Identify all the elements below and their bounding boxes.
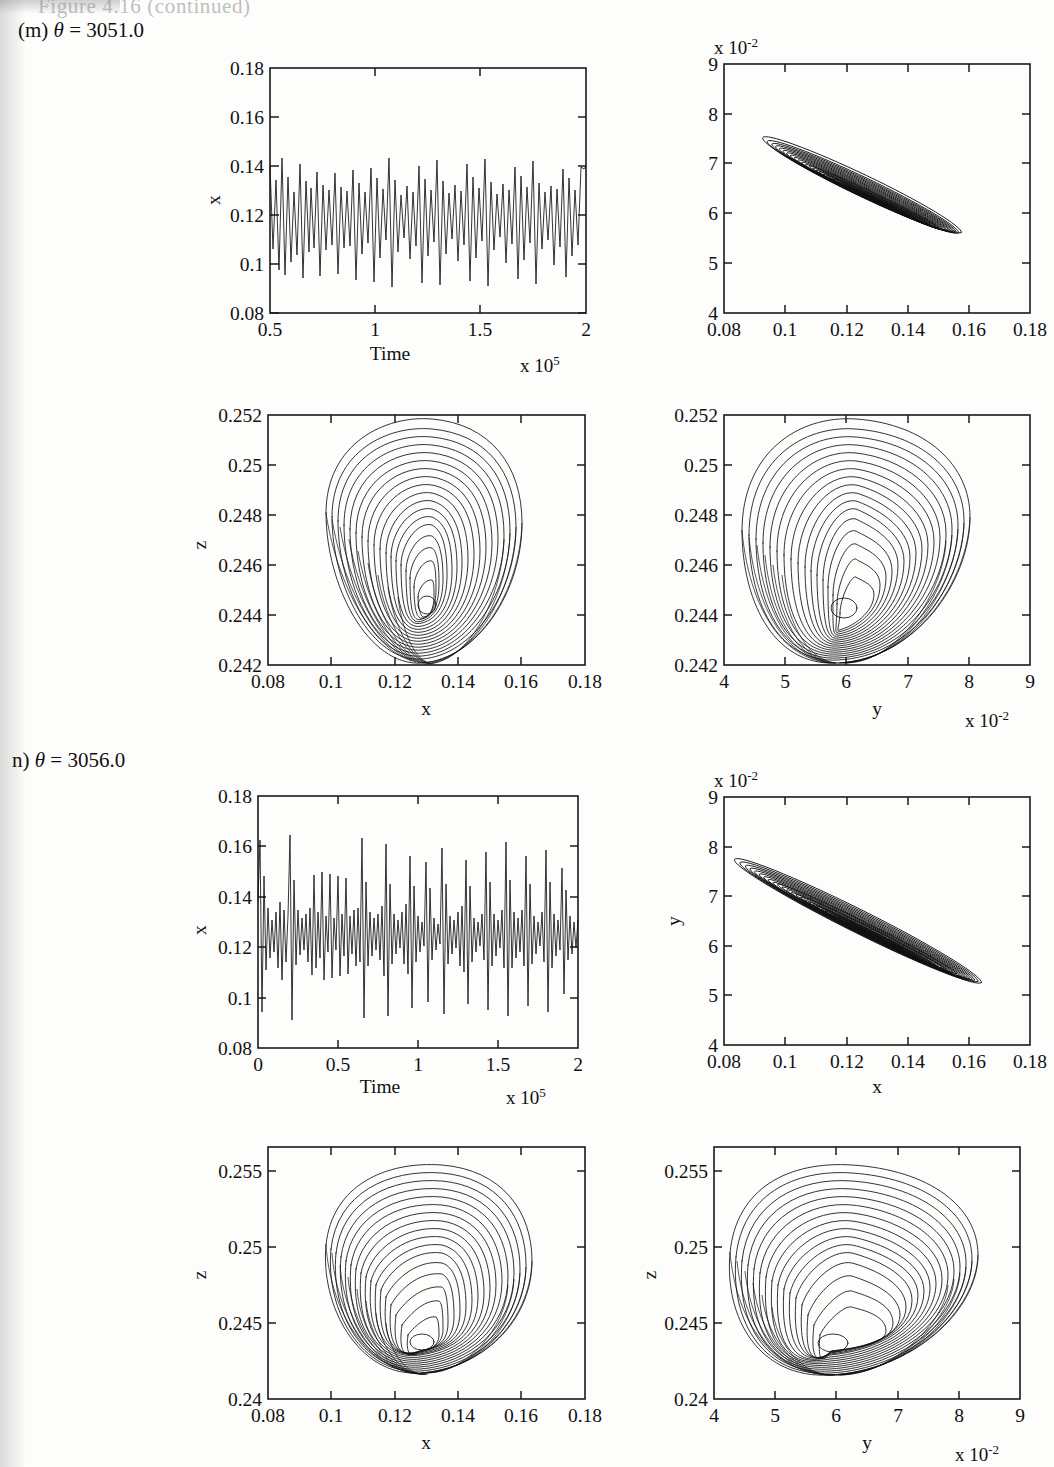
svg-text:0.16: 0.16 [504,1405,538,1426]
svg-text:0.255: 0.255 [218,1161,262,1182]
zx-attractor-trace [325,1165,532,1375]
svg-text:1: 1 [370,319,380,340]
svg-text:0.244: 0.244 [674,605,718,626]
panel-n-theta-value: 3056.0 [67,748,125,772]
x-ticks [775,1147,959,1399]
svg-text:0.18: 0.18 [230,58,264,79]
x-exponent-label: x 10-2 [955,1442,999,1465]
panel-caption-m: (m) θ = 3051.0 [18,18,144,43]
zy-attractor-trace [742,419,970,663]
y-axis-title: z [189,1270,210,1279]
y-axis-labels: 4 5 6 7 8 9 [708,54,718,324]
x-exponent-label: x 10-2 [965,708,1009,731]
x-axis-labels: 0.08 0.1 0.12 0.14 0.16 0.18 [707,319,1047,340]
chart-m-timeseries: 0.08 0.1 0.12 0.14 0.16 0.18 0.5 1 1.5 2… [190,40,610,380]
svg-text:8: 8 [708,104,718,125]
svg-text:6: 6 [708,203,718,224]
chart-m-zx: 0.242 0.244 0.246 0.248 0.25 0.252 0.08 … [130,395,610,735]
svg-text:0.16: 0.16 [504,671,538,692]
panel-n-label: n) [12,748,30,772]
zy-attractor-trace [729,1165,978,1376]
svg-text:2: 2 [581,319,591,340]
y-ticks [268,465,585,615]
x-axis-title: y [862,1432,872,1453]
svg-text:0.1: 0.1 [240,254,264,275]
svg-text:1.5: 1.5 [486,1054,510,1075]
x-axis-title: Time [370,343,410,364]
timeseries-trace [258,835,578,1020]
x-axis-labels: 0.08 0.1 0.12 0.14 0.16 0.18 [251,671,602,692]
plot-frame [268,1147,585,1399]
svg-text:0.12: 0.12 [830,1051,864,1072]
chart-m-xy: x 10-2 [690,30,1054,360]
x-axis-labels: 0.08 0.1 0.12 0.14 0.16 0.18 [707,1051,1047,1072]
y-axis-title: z [189,540,210,549]
svg-text:0.08: 0.08 [707,319,741,340]
svg-text:9: 9 [1025,671,1035,692]
chart-m-zy: 0.242 0.244 0.246 0.248 0.25 0.252 4 5 6… [630,395,1054,745]
svg-text:0.246: 0.246 [674,555,718,576]
x-exponent-label: x 105 [506,1085,546,1108]
svg-text:5: 5 [780,671,790,692]
svg-text:0.14: 0.14 [441,1405,475,1426]
svg-text:6: 6 [831,1405,841,1426]
svg-text:0.25: 0.25 [674,1237,708,1258]
m-zy-plot-area [724,415,1030,665]
timeseries-trace [270,158,586,287]
svg-text:9: 9 [1015,1405,1025,1426]
svg-text:0.1: 0.1 [319,1405,343,1426]
svg-text:0.14: 0.14 [230,156,264,177]
svg-text:9: 9 [708,54,718,75]
cut-off-figure-caption: Figure 4.16 (continued) [38,0,251,19]
m-timeseries-plot-area [270,68,586,313]
y-axis-labels: 0.242 0.244 0.246 0.248 0.25 0.252 [218,405,262,676]
x-axis-labels: 0.5 1 1.5 2 [258,319,591,340]
svg-text:7: 7 [708,886,718,907]
x-axis-title: y [872,698,882,719]
svg-text:0.08: 0.08 [251,1405,285,1426]
svg-text:0.08: 0.08 [218,1038,252,1059]
svg-text:5: 5 [708,985,718,1006]
svg-text:0.245: 0.245 [218,1313,262,1334]
svg-text:7: 7 [903,671,913,692]
svg-text:0.245: 0.245 [664,1313,708,1334]
x-axis-labels: 4 5 6 7 8 9 [719,671,1035,692]
svg-text:0.18: 0.18 [218,786,252,807]
svg-text:8: 8 [708,837,718,858]
figure-page: Figure 4.16 (continued) (m) θ = 3051.0 [0,0,1054,1467]
svg-text:0.16: 0.16 [230,107,264,128]
x-ticks [375,68,480,313]
panel-m-theta-value: 3051.0 [86,18,144,42]
panel-m-equals: = [69,18,81,42]
y-axis-labels: 0.08 0.1 0.12 0.14 0.16 0.18 [218,786,252,1059]
svg-text:0.25: 0.25 [228,1237,262,1258]
y-axis-labels: 0.08 0.1 0.12 0.14 0.16 0.18 [230,58,264,324]
x-axis-labels: 4 5 6 7 8 9 [709,1405,1025,1426]
svg-text:0.1: 0.1 [319,671,343,692]
svg-text:8: 8 [964,671,974,692]
svg-text:5: 5 [708,253,718,274]
svg-text:0.08: 0.08 [251,671,285,692]
m-zx-plot-area [268,415,585,665]
svg-text:0.248: 0.248 [218,505,262,526]
y-axis-title: y [663,916,684,926]
chart-n-timeseries: 0.08 0.1 0.12 0.14 0.16 0.18 0 0.5 1 1.5… [170,780,620,1110]
svg-text:0.18: 0.18 [1013,1051,1047,1072]
svg-text:0.12: 0.12 [378,671,412,692]
xy-attractor-trace [758,128,966,242]
svg-text:5: 5 [770,1405,780,1426]
svg-text:0.252: 0.252 [674,405,718,426]
svg-text:0.25: 0.25 [684,455,718,476]
svg-text:4: 4 [719,671,729,692]
n-zy-plot-area [714,1147,1020,1399]
panel-n-theta-symbol: θ [35,748,45,772]
y-exponent-label: x 10-2 [714,35,758,58]
svg-text:6: 6 [708,936,718,957]
svg-text:1: 1 [413,1054,423,1075]
x-axis-labels: 0 0.5 1 1.5 2 [253,1054,583,1075]
y-axis-labels: 4 5 6 7 8 9 [708,787,718,1056]
chart-n-zx: 0.24 0.245 0.25 0.255 0.08 0.1 0.12 0.14… [130,1125,620,1467]
svg-text:0.248: 0.248 [674,505,718,526]
n-xy-plot-area [724,797,1030,1045]
svg-text:1.5: 1.5 [468,319,492,340]
